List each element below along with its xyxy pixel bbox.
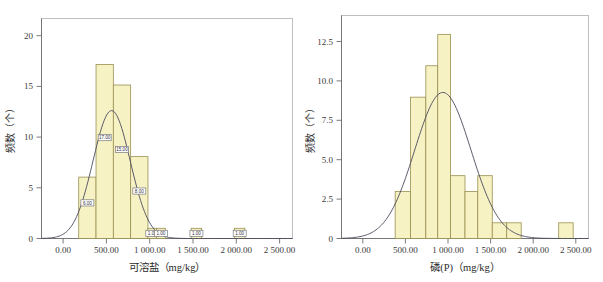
x-tick-label: 2 500.00 bbox=[560, 245, 592, 255]
y-axis-title-left: 频数（个） bbox=[4, 103, 16, 153]
x-tick-label: 2 000.00 bbox=[221, 245, 253, 255]
data-label-text: 1.00 bbox=[192, 231, 201, 236]
data-label-text: 17.00 bbox=[99, 135, 111, 140]
panel-soluble-salt: 0 5 10 15 20 0.00 500.00 1 000.00 1 500.… bbox=[4, 19, 296, 274]
data-label-text: 15.00 bbox=[116, 147, 128, 152]
y-tick-label: 7.5 bbox=[322, 115, 334, 125]
y-tick-label: 2.5 bbox=[322, 194, 334, 204]
histogram-bar bbox=[426, 66, 438, 239]
y-tick-label: 0 bbox=[29, 234, 34, 244]
histogram-bar bbox=[507, 223, 521, 239]
bars-group-right bbox=[395, 34, 573, 238]
data-label-text: 1.00 bbox=[235, 231, 244, 236]
y-tick-label: 10 bbox=[24, 132, 34, 142]
x-tick-label: 500.00 bbox=[94, 245, 119, 255]
x-tick-label: 1 500.00 bbox=[177, 245, 209, 255]
figure-canvas: 0 5 10 15 20 0.00 500.00 1 000.00 1 500.… bbox=[0, 0, 603, 282]
y-tick-label: 15 bbox=[24, 81, 34, 91]
y-tick-label: 10.0 bbox=[317, 76, 333, 86]
y-tick-label: 5.0 bbox=[322, 155, 334, 165]
y-tick-label: 12.5 bbox=[317, 37, 333, 47]
histogram-bar bbox=[438, 34, 451, 238]
x-tick-label: 500.00 bbox=[393, 245, 418, 255]
histogram-bar bbox=[559, 223, 573, 239]
x-tick-label: 0.00 bbox=[55, 245, 71, 255]
x-tick-label: 2 000.00 bbox=[517, 245, 549, 255]
histogram-bar bbox=[478, 176, 492, 239]
histogram-bar bbox=[465, 191, 478, 238]
histogram-figure: 0 5 10 15 20 0.00 500.00 1 000.00 1 500.… bbox=[0, 0, 603, 282]
data-label-text: 8.00 bbox=[135, 189, 144, 194]
histogram-bar bbox=[113, 85, 130, 238]
x-tick-label: 1 000.00 bbox=[134, 245, 166, 255]
y-ticks-left: 0 5 10 15 20 bbox=[24, 31, 42, 244]
histogram-bar bbox=[79, 177, 96, 238]
x-ticks-left: 0.00 500.00 1 000.00 1 500.00 2 000.00 2… bbox=[55, 239, 296, 256]
histogram-bar bbox=[451, 176, 465, 239]
x-tick-label: 1 500.00 bbox=[475, 245, 507, 255]
y-axis-title-right: 频数（个） bbox=[304, 103, 316, 153]
y-ticks-right: 0 2.5 5.0 7.5 10.0 12.5 bbox=[317, 37, 341, 244]
data-label-text: 1.00 bbox=[156, 231, 165, 236]
y-tick-label: 20 bbox=[24, 31, 34, 41]
x-axis-title-left: 可溶盐（mg/kg） bbox=[129, 261, 206, 273]
panel-phosphorus: 0 2.5 5.0 7.5 10.0 12.5 0.00 500.00 1 00… bbox=[304, 16, 592, 275]
x-tick-label: 0.00 bbox=[355, 245, 371, 255]
x-ticks-right: 0.00 500.00 1 000.00 1 500.00 2 000.00 2… bbox=[355, 239, 592, 256]
y-tick-label: 5 bbox=[29, 183, 34, 193]
histogram-bar bbox=[410, 97, 425, 238]
x-axis-title-right: 磷(P)（mg/kg） bbox=[430, 261, 500, 274]
data-label-text: 6.00 bbox=[83, 201, 92, 206]
x-tick-label: 1 000.00 bbox=[432, 245, 464, 255]
bars-group-left bbox=[79, 65, 245, 239]
x-tick-label: 2 500.00 bbox=[264, 245, 296, 255]
y-tick-label: 0 bbox=[329, 234, 334, 244]
histogram-bar bbox=[96, 65, 113, 239]
